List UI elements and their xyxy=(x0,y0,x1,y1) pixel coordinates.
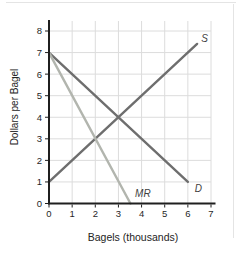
x-tick-label: 1 xyxy=(69,208,74,219)
x-tick-label: 0 xyxy=(46,208,51,219)
y-axis-title: Dollars per Bagel xyxy=(9,69,20,146)
x-tick-label: 2 xyxy=(93,208,98,219)
x-tick-label: 6 xyxy=(185,208,190,219)
curve-label-S: S xyxy=(201,33,208,44)
curve-label-MR: MR xyxy=(135,188,151,199)
chart-canvas: SDMR01234567012345678 xyxy=(0,0,236,259)
x-tick-label: 3 xyxy=(116,208,121,219)
y-tick-label: 4 xyxy=(37,112,42,123)
y-tick-label: 5 xyxy=(37,90,42,101)
y-tick-label: 7 xyxy=(37,47,42,58)
supply-demand-chart-page: SDMR01234567012345678 Dollars per Bagel … xyxy=(0,0,236,259)
y-tick-label: 6 xyxy=(37,69,42,80)
y-tick-label: 8 xyxy=(37,25,42,36)
y-tick-label: 1 xyxy=(37,176,42,187)
x-tick-label: 5 xyxy=(162,208,167,219)
x-tick-label: 4 xyxy=(139,208,144,219)
y-tick-label: 3 xyxy=(37,133,42,144)
curve-S xyxy=(49,44,197,182)
x-axis-title: Bagels (thousands) xyxy=(88,231,178,243)
y-tick-label: 2 xyxy=(37,155,42,166)
curve-label-D: D xyxy=(195,183,202,194)
x-tick-label: 7 xyxy=(208,208,213,219)
y-tick-label: 0 xyxy=(37,198,42,209)
